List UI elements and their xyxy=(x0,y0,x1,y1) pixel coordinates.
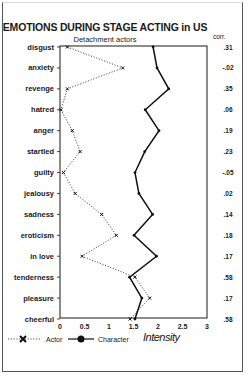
x-tick-label: 1.5 xyxy=(129,323,139,330)
data-point-character xyxy=(128,276,131,279)
legend-item-actor: Actor xyxy=(8,334,62,344)
correlation-value: .58 xyxy=(223,316,232,323)
category-label: in love xyxy=(30,252,54,261)
data-point-character xyxy=(137,192,140,195)
x-tick-label: 2.5 xyxy=(178,323,188,330)
category-label: anxiety xyxy=(28,63,55,72)
category-label: cheerful xyxy=(25,315,54,324)
category-label: anger xyxy=(34,126,55,135)
x-tick-label: 1 xyxy=(107,323,111,330)
category-label: pleasure xyxy=(23,294,54,303)
category-label: tenderness xyxy=(14,273,54,282)
data-point-character xyxy=(158,129,161,132)
legend-label-character: Character xyxy=(98,336,129,343)
category-label: eroticism xyxy=(21,231,55,240)
x-tick-label: 0.5 xyxy=(80,323,90,330)
data-point-character xyxy=(133,234,136,237)
x-axis-title: Intensity xyxy=(143,331,179,343)
data-point-actor xyxy=(115,234,118,237)
correlation-value: .23 xyxy=(223,148,232,155)
data-point-character xyxy=(151,213,154,216)
actor-legend-marker-icon xyxy=(8,334,40,344)
correlation-value: .02 xyxy=(223,190,232,197)
correlation-value: .19 xyxy=(223,127,232,134)
correlation-value: .14 xyxy=(223,211,232,218)
legend: Actor Character Intensity xyxy=(8,334,238,348)
category-label: sadness xyxy=(24,210,54,219)
correlation-value: -.02 xyxy=(222,64,234,71)
correlation-value: .31 xyxy=(223,44,232,51)
series-group xyxy=(59,46,170,321)
correlation-value: .18 xyxy=(223,232,232,239)
data-point-character xyxy=(134,318,137,321)
category-label: revenge xyxy=(25,84,54,93)
data-point-actor xyxy=(100,213,103,216)
x-axis-ticks: 00.511.522.53 xyxy=(58,323,209,330)
correlation-value: .17 xyxy=(223,253,232,260)
category-label: jealousy xyxy=(23,189,55,198)
data-point-character xyxy=(155,255,158,258)
legend-label-actor: Actor xyxy=(46,336,62,343)
data-point-character xyxy=(134,171,137,174)
correlation-value: -.05 xyxy=(222,169,234,176)
plot-area xyxy=(60,46,207,318)
correlation-value: .58 xyxy=(223,274,232,281)
data-point-character xyxy=(144,108,147,111)
data-point-character xyxy=(152,46,155,49)
character-legend-marker-icon xyxy=(68,334,94,344)
data-point-character xyxy=(143,150,146,153)
chart-plot: 00.511.522.53 disgustanxietyrevengehatre… xyxy=(0,0,249,379)
series-character xyxy=(128,46,170,321)
correlation-labels: .31-.02.35.06.19.23-.05.02.14.18.17.58.1… xyxy=(222,44,234,323)
category-label: startled xyxy=(27,147,55,156)
data-point-character xyxy=(156,67,159,70)
x-tick-label: 3 xyxy=(205,323,209,330)
correlation-value: .35 xyxy=(223,85,232,92)
data-point-character xyxy=(140,297,143,300)
x-tick-label: 0 xyxy=(58,323,62,330)
data-point-actor xyxy=(62,171,65,174)
data-point-actor xyxy=(66,87,69,90)
data-point-actor xyxy=(81,255,84,258)
category-labels: disgustanxietyrevengehatredangerstartled… xyxy=(14,43,60,324)
category-label: disgust xyxy=(27,43,54,52)
category-label: hatred xyxy=(31,105,54,114)
x-tick-label: 2 xyxy=(156,323,160,330)
correlation-value: .17 xyxy=(223,295,232,302)
data-point-actor xyxy=(74,192,77,195)
legend-item-character: Character xyxy=(68,334,129,344)
data-point-actor xyxy=(148,297,151,300)
category-label: guilty xyxy=(34,168,55,177)
data-point-character xyxy=(167,87,170,90)
correlation-value: .06 xyxy=(223,106,232,113)
